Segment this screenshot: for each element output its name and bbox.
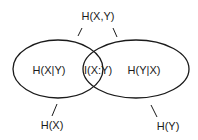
entropy-x-label: H(X) [41, 119, 64, 131]
joint-entropy-label: H(X,Y) [82, 10, 115, 22]
hx-pointer [52, 104, 57, 116]
cond-x-given-y-label: H(X|Y) [33, 64, 66, 76]
joint-pointer-right [113, 28, 117, 37]
cond-y-given-x-label: H(Y|X) [128, 64, 161, 76]
hy-pointer [151, 105, 157, 117]
mutual-information-label: I(X:Y) [84, 64, 112, 76]
venn-canvas: H(X,Y) H(X|Y) I(X:Y) H(Y|X) H(X) H(Y) [0, 0, 198, 140]
entropy-venn-diagram: H(X,Y) H(X|Y) I(X:Y) H(Y|X) H(X) H(Y) [0, 0, 198, 140]
joint-pointer-left [78, 28, 82, 36]
entropy-y-label: H(Y) [157, 120, 180, 132]
